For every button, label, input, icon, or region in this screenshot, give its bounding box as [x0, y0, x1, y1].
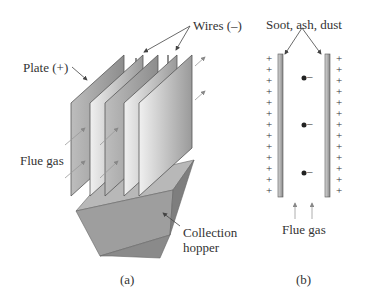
- caption-a: (a): [120, 272, 134, 288]
- charged-particles: [302, 76, 307, 176]
- flue-gas-label-a: Flue gas: [20, 153, 64, 169]
- flue-gas-arrows-b: [295, 203, 312, 219]
- wires-label: Wires (–): [193, 18, 242, 34]
- plus-sign: +: [336, 184, 342, 196]
- plate-label: Plate (+): [23, 60, 68, 76]
- hopper-label: hopper: [183, 240, 219, 256]
- caption-b: (b): [296, 272, 311, 288]
- minus-sign: –: [307, 117, 313, 129]
- flue-gas-label-b: Flue gas: [282, 222, 326, 238]
- minus-sign: –: [307, 70, 313, 82]
- minus-sign: –: [307, 165, 313, 177]
- collection-label: Collection: [183, 225, 237, 241]
- deposits-label: Soot, ash, dust: [266, 17, 342, 33]
- plus-sign: +: [266, 184, 272, 196]
